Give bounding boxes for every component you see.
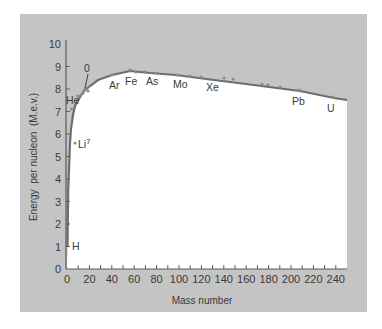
label-Mo: Mo [173,78,188,90]
y-tick-9: 9 [55,61,61,73]
label-Pb: Pb [292,95,305,107]
label-O: 0 [84,62,90,74]
label-U: U [327,102,335,114]
x-tick-100: 100 [170,273,188,285]
label-Xe: Xe [206,81,219,93]
x-tick-120: 120 [192,273,210,285]
y-tick-labels: 0 1 2 3 4 5 6 7 8 9 10 [49,38,61,275]
x-tick-220: 220 [304,273,322,285]
y-tick-7: 7 [55,106,61,118]
label-Fe: Fe [125,75,137,87]
x-tick-200: 200 [282,273,300,285]
binding-energy-chart: 0 1 2 3 4 5 6 7 8 9 10 0 20 40 60 80 100… [0,0,382,329]
y-tick-8: 8 [55,83,61,95]
y-tick-5: 5 [55,151,61,163]
y-tick-4: 4 [55,173,61,185]
y-tick-6: 6 [55,128,61,140]
x-tick-180: 180 [259,273,277,285]
x-tick-80: 80 [150,273,162,285]
x-axis-title: Mass number [172,295,233,306]
area-under-curve [67,71,347,269]
x-tick-160: 160 [237,273,255,285]
y-axis-title: Energy per nucleon (M.e.v.) [28,93,39,221]
x-tick-140: 140 [215,273,233,285]
x-tick-60: 60 [128,273,140,285]
label-H: H [72,240,80,252]
x-tick-labels: 0 20 40 60 80 100 120 140 160 180 200 22… [64,273,345,285]
y-tick-1: 1 [55,241,61,253]
y-tick-2: 2 [55,218,61,230]
x-tick-0: 0 [64,273,70,285]
label-Ar: Ar [109,79,120,91]
x-tick-240: 240 [327,273,345,285]
label-O-pointer [85,74,88,88]
y-tick-0: 0 [55,263,61,275]
y-tick-10: 10 [49,38,61,50]
y-tick-3: 3 [55,196,61,208]
x-tick-20: 20 [83,273,95,285]
label-He: He [66,94,80,106]
x-tick-40: 40 [106,273,118,285]
label-As: As [146,75,158,87]
